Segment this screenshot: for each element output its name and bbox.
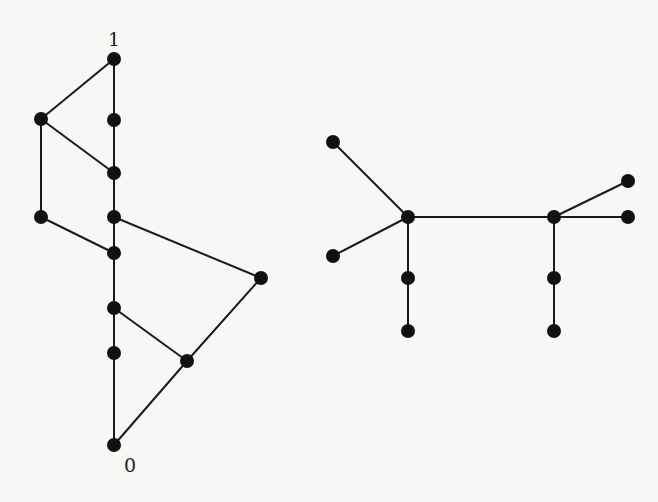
right-tree-node-t4: [621, 210, 635, 224]
left-lattice-edge-l2-d: [41, 217, 114, 253]
right-tree-node-p1: [401, 271, 415, 285]
right-tree-edge-h2-t3: [554, 181, 628, 217]
right-tree-edge-t2-h1: [333, 217, 408, 256]
left-lattice-edge-l1-b: [41, 119, 114, 173]
right-tree-node-h1: [401, 210, 415, 224]
left-lattice-node-d: [107, 246, 121, 260]
left-lattice-edge-g-n0: [114, 361, 187, 445]
left-lattice-node-n0: [107, 438, 121, 452]
left-lattice-node-l1: [34, 112, 48, 126]
left-lattice-node-a: [107, 113, 121, 127]
left-lattice-node-e: [107, 301, 121, 315]
right-tree-node-t3: [621, 174, 635, 188]
left-lattice-node-g: [180, 354, 194, 368]
left-lattice-node-f: [107, 346, 121, 360]
left-lattice-node-n1: [107, 52, 121, 66]
left-lattice-edge-c-r: [114, 217, 261, 278]
left-lattice-node-r: [254, 271, 268, 285]
left-lattice-node-l2: [34, 210, 48, 224]
graph-figure: 1 0: [0, 0, 658, 502]
left-lattice-edge-n1-l1: [41, 59, 114, 119]
left-lattice-edge-r-g: [187, 278, 261, 361]
left-lattice-edge-e-g: [114, 308, 187, 361]
label-bottom-0: 0: [124, 454, 136, 476]
right-tree-edge-t1-h1: [333, 142, 408, 217]
nodes-layer: [34, 52, 635, 452]
right-tree-node-q2: [547, 324, 561, 338]
right-tree-node-t1: [326, 135, 340, 149]
right-tree-node-t2: [326, 249, 340, 263]
right-tree-node-q1: [547, 271, 561, 285]
left-lattice-node-c: [107, 210, 121, 224]
label-top-1: 1: [108, 28, 120, 50]
left-lattice-node-b: [107, 166, 121, 180]
right-tree-node-h2: [547, 210, 561, 224]
right-tree-node-p2: [401, 324, 415, 338]
